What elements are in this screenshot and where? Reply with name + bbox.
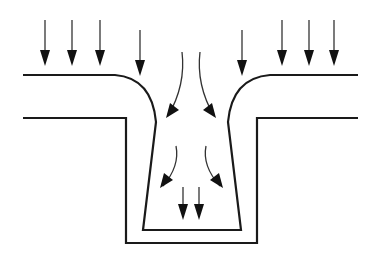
left-surface-outline <box>23 75 358 230</box>
down-arrow-icon <box>277 20 287 66</box>
down-arrow-icon <box>237 30 247 76</box>
down-arrow-icon <box>178 187 188 220</box>
curved-arrow-icon <box>166 52 183 118</box>
down-arrow-icon <box>194 187 204 220</box>
curved-arrow-icon <box>160 146 177 188</box>
diagram-canvas <box>0 0 379 260</box>
outer-trench-outline <box>23 118 358 243</box>
down-arrow-icon <box>135 30 145 76</box>
down-arrow-icon <box>329 20 339 66</box>
down-arrow-icon <box>95 20 105 66</box>
flow-arrows <box>40 20 339 220</box>
curved-arrow-icon <box>199 52 216 118</box>
down-arrow-icon <box>67 20 77 66</box>
down-arrow-icon <box>304 20 314 66</box>
trench-funnel-diagram <box>0 0 379 260</box>
curved-arrow-icon <box>205 146 223 188</box>
down-arrow-icon <box>40 20 50 66</box>
